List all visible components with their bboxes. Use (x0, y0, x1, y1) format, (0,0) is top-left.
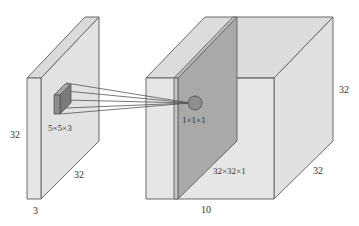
filter-cube-front (54, 95, 60, 114)
convolution-diagram (0, 0, 359, 226)
filter-size-label: 5×5×3 (48, 124, 72, 133)
output-depth-label: 10 (201, 205, 211, 215)
output-slice-label: 32×32×1 (213, 167, 246, 176)
output-slice-front-edge (174, 78, 178, 199)
output-width-label: 32 (313, 166, 323, 176)
input-depth-label: 3 (33, 206, 38, 216)
output-point-label: 1×1×1 (182, 116, 206, 125)
output-point-circle (188, 96, 202, 110)
input-height-label: 32 (10, 130, 20, 140)
input-width-label: 32 (74, 170, 84, 180)
input-volume-front-face (27, 78, 41, 199)
output-height-label: 32 (339, 85, 349, 95)
